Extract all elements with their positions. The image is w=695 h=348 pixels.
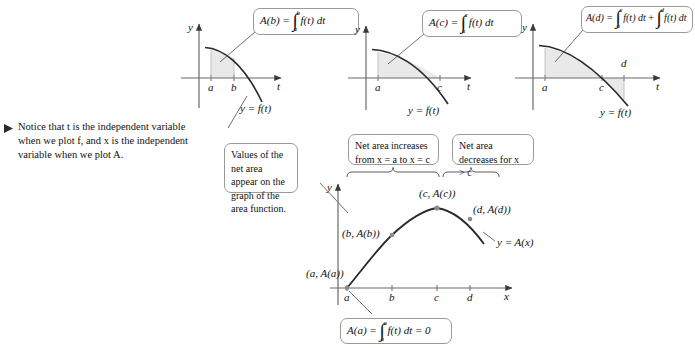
point-a <box>345 286 350 291</box>
area-curve-label-leader <box>483 232 495 241</box>
point-d <box>468 217 473 222</box>
panel-b-formula-lhs: A(b) = <box>260 14 290 26</box>
integral-sign-icon-2: ∫dc <box>656 11 661 25</box>
point-b <box>390 233 395 238</box>
panel-d-integrand: f(t) dt <box>623 12 646 23</box>
panel-b-t-axis-label: t <box>277 81 280 92</box>
panel-d-integrand-2: f(t) dt <box>664 12 687 23</box>
panel-b-curve-label: y = f(t) <box>240 103 271 114</box>
area-tick-a: a <box>344 292 350 303</box>
integral-sign-icon: ∫ca <box>461 16 466 30</box>
panel-c-int-lower: a <box>462 29 466 34</box>
a-zero-int-upper: a <box>383 321 387 326</box>
area-y-axis-label: y <box>327 182 332 193</box>
panel-d-tick-c: c <box>599 82 604 93</box>
figure-area-function: y t a b y = f(t) A(b) = ∫ba f(t) dt y t … <box>0 0 695 348</box>
shaded-area-ac-2 <box>545 48 602 78</box>
a-zero-lhs: A(a) = <box>347 324 377 336</box>
panel-c-graph <box>348 26 471 110</box>
point-label-c: (c, A(c)) <box>419 188 455 199</box>
panel-b-int-upper: b <box>296 11 300 16</box>
panel-c-integrand: f(t) dt <box>469 16 494 28</box>
a-zero-int-lower: a <box>380 337 384 342</box>
panel-c-int-upper: c <box>465 13 468 18</box>
area-curve-label: y = A(x) <box>497 237 534 248</box>
panel-d-curve-label: y = f(t) <box>600 107 631 118</box>
panel-c-y-axis-label: y <box>355 24 360 35</box>
panel-c-tick-c: c <box>437 82 442 93</box>
margin-note-arrow-icon <box>4 124 13 133</box>
panel-b-callout-leader <box>220 32 255 62</box>
panel-d-formula-lhs: A(d) = <box>586 12 613 23</box>
panel-c-t-axis-label: t <box>467 81 470 92</box>
area-tick-d: d <box>467 292 473 303</box>
area-curve-A <box>347 208 484 288</box>
panel-c-formula-callout: A(c) = ∫ca f(t) dt <box>422 10 522 37</box>
net-area-values-callout: Values of the net area appear on the gra… <box>224 143 298 193</box>
panel-c-formula-lhs: A(c) = <box>429 16 458 28</box>
integral-sign-icon-3: ∫aa <box>379 324 384 338</box>
area-x-axis-label: x <box>504 291 509 302</box>
point-label-d: (d, A(d)) <box>473 204 511 215</box>
a-zero-callout: A(a) = ∫aa f(t) dt = 0 <box>340 318 452 344</box>
point-label-a: (a, A(a)) <box>306 268 344 279</box>
margin-note-text: Notice that t is the independent variabl… <box>18 120 188 163</box>
panel-b-graph <box>181 24 281 108</box>
panel-d-int-lower: a <box>617 24 621 29</box>
panel-d-graph <box>515 24 660 110</box>
panel-c-callout-leader <box>388 34 424 64</box>
a-zero-integrand: f(t) dt = 0 <box>387 324 430 336</box>
panel-b-formula-callout: A(b) = ∫ba f(t) dt <box>253 8 359 35</box>
panel-b-integrand: f(t) dt <box>300 14 325 26</box>
panel-b-int-lower: a <box>293 27 297 32</box>
net-area-increases-callout: Net area increases from x = a to x = c <box>348 134 439 165</box>
panel-d-y-axis-label: y <box>522 22 527 33</box>
point-label-b: (b, A(b)) <box>342 228 380 239</box>
integral-sign-icon: ∫ba <box>292 14 297 28</box>
values-callout-leader-down <box>320 183 348 213</box>
panel-d-int-upper: c <box>620 8 623 13</box>
net-area-decreases-callout: Net area decreases for x > c <box>452 134 534 165</box>
area-tick-c: c <box>434 292 439 303</box>
panel-d-plus-sign: + <box>648 12 654 23</box>
panel-b-y-axis-label: y <box>188 22 193 33</box>
brace-increase <box>347 168 439 178</box>
panel-d-t-axis-label: t <box>656 81 659 92</box>
panel-c-tick-a: a <box>375 82 381 93</box>
panel-c-curve-label: y = f(t) <box>408 105 439 116</box>
panel-d-int2-upper: d <box>660 8 664 13</box>
panel-d-int2-lower: c <box>657 24 660 29</box>
panel-d-tick-a: a <box>542 82 548 93</box>
point-c <box>434 205 439 210</box>
panel-d-formula-callout: A(d) = ∫ca f(t) dt + ∫dc f(t) dt <box>581 6 693 33</box>
panel-b-tick-b: b <box>231 82 237 93</box>
a-zero-callout-leader <box>349 291 372 314</box>
integral-sign-icon: ∫ca <box>616 11 621 25</box>
panel-b-tick-a: a <box>208 82 214 93</box>
panel-d-tick-d: d <box>621 58 627 69</box>
shaded-area-ac <box>378 52 440 78</box>
area-tick-b: b <box>389 292 395 303</box>
